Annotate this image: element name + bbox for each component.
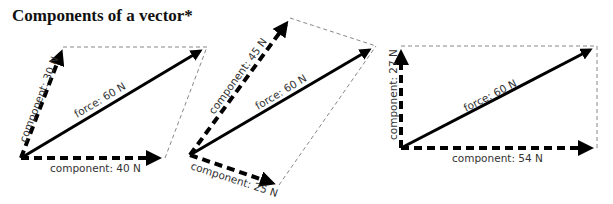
component-label: component: 40 N — [50, 162, 141, 174]
vector-diagrams: component: 30 N component: 40 N force: 6… — [0, 0, 613, 204]
component-label: component: 54 N — [452, 152, 543, 164]
diagram-3: component: 27 N component: 54 N force: 6… — [387, 46, 597, 164]
diagram-1: component: 30 N component: 40 N force: 6… — [17, 47, 207, 174]
force-label: force: 60 N — [461, 77, 518, 114]
guide-line — [279, 46, 376, 185]
component-label: component: 27 N — [387, 49, 399, 140]
diagram-2: component: 45 N component: 25 N force: 6… — [189, 18, 376, 199]
guide-line — [290, 18, 376, 46]
component-label: component: 30 N — [17, 55, 61, 144]
